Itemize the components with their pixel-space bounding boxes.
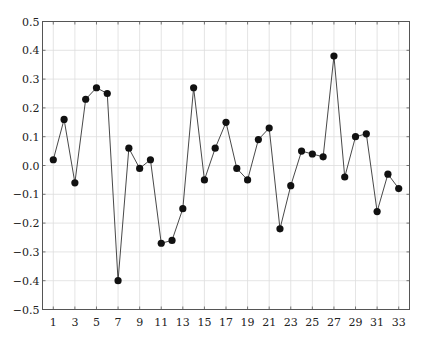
data-point-marker — [395, 185, 402, 192]
y-axis-tick-labels: −0.5−0.4−0.3−0.2−0.10.00.10.20.30.40.5 — [13, 16, 40, 317]
x-tick-label: 7 — [115, 316, 122, 329]
x-tick-label: 27 — [327, 316, 341, 329]
data-point-marker — [244, 176, 251, 183]
line-chart: −0.5−0.4−0.3−0.2−0.10.00.10.20.30.40.5 1… — [0, 0, 431, 340]
y-tick-label: −0.2 — [13, 217, 40, 230]
x-tick-label: 25 — [305, 316, 319, 329]
data-point-marker — [114, 277, 121, 284]
data-point-marker — [125, 145, 132, 152]
grid — [43, 22, 410, 310]
data-point-marker — [93, 84, 100, 91]
data-point-marker — [287, 182, 294, 189]
data-point-marker — [255, 136, 262, 143]
data-point-marker — [71, 179, 78, 186]
x-tick-label: 31 — [370, 316, 384, 329]
data-point-marker — [201, 176, 208, 183]
data-point-marker — [233, 165, 240, 172]
data-point-marker — [222, 119, 229, 126]
y-tick-label: 0.2 — [22, 102, 40, 115]
x-tick-label: 29 — [349, 316, 363, 329]
x-tick-label: 3 — [71, 316, 78, 329]
data-point-marker — [179, 205, 186, 212]
x-tick-label: 9 — [136, 316, 143, 329]
y-tick-label: 0.4 — [22, 44, 40, 57]
data-point-marker — [82, 96, 89, 103]
data-point-marker — [266, 124, 273, 131]
x-tick-label: 33 — [392, 316, 406, 329]
x-tick-label: 5 — [93, 316, 100, 329]
x-tick-label: 13 — [176, 316, 190, 329]
x-axis-tick-labels: 13579111315171921232527293133 — [50, 316, 406, 329]
y-tick-label: −0.1 — [13, 188, 40, 201]
data-point-marker — [60, 116, 67, 123]
x-tick-label: 19 — [241, 316, 255, 329]
data-point-marker — [309, 150, 316, 157]
x-tick-label: 11 — [154, 316, 168, 329]
y-tick-label: 0.5 — [22, 16, 40, 29]
y-tick-label: 0.3 — [22, 73, 40, 86]
data-point-marker — [212, 145, 219, 152]
data-point-marker — [104, 90, 111, 97]
x-tick-label: 1 — [50, 316, 57, 329]
x-tick-label: 23 — [284, 316, 298, 329]
data-point-marker — [384, 171, 391, 178]
y-tick-label: −0.5 — [13, 304, 40, 317]
data-point-marker — [320, 153, 327, 160]
data-point-marker — [168, 237, 175, 244]
data-point-marker — [158, 240, 165, 247]
y-tick-label: −0.4 — [13, 275, 40, 288]
y-tick-label: 0.1 — [22, 131, 40, 144]
x-tick-label: 21 — [262, 316, 276, 329]
y-tick-label: 0.0 — [22, 160, 40, 173]
data-point-marker — [190, 84, 197, 91]
data-point-marker — [50, 156, 57, 163]
data-point-marker — [341, 173, 348, 180]
data-point-marker — [276, 225, 283, 232]
data-point-marker — [352, 133, 359, 140]
data-point-marker — [136, 165, 143, 172]
x-tick-label: 17 — [219, 316, 233, 329]
data-point-marker — [330, 52, 337, 59]
x-tick-label: 15 — [197, 316, 211, 329]
data-point-marker — [374, 208, 381, 215]
y-tick-label: −0.3 — [13, 246, 40, 259]
data-point-marker — [147, 156, 154, 163]
data-point-marker — [298, 148, 305, 155]
data-point-marker — [363, 130, 370, 137]
